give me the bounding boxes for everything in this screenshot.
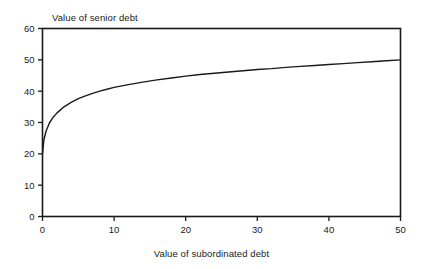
x-tick-label: 50 xyxy=(395,224,406,235)
x-tick-label: 0 xyxy=(40,224,45,235)
chart-figure: Value of senior debt 0102030405060010203… xyxy=(0,0,423,269)
x-tick-label: 40 xyxy=(324,224,335,235)
y-tick-label: 60 xyxy=(24,23,35,34)
x-tick-label: 20 xyxy=(180,224,191,235)
y-tick-label: 10 xyxy=(24,180,35,191)
plot-frame xyxy=(43,29,401,217)
y-tick-label: 50 xyxy=(24,54,35,65)
y-tick-label: 40 xyxy=(24,86,35,97)
x-tick-label: 30 xyxy=(252,224,263,235)
y-tick-label: 0 xyxy=(29,211,34,222)
plot-canvas: 010203040506001020304050 xyxy=(0,0,423,269)
data-line-senior-debt xyxy=(43,60,401,154)
y-tick-label: 30 xyxy=(24,117,35,128)
x-axis-label: Value of subordinated debt xyxy=(0,248,423,259)
y-tick-label: 20 xyxy=(24,148,35,159)
x-tick-label: 10 xyxy=(109,224,120,235)
